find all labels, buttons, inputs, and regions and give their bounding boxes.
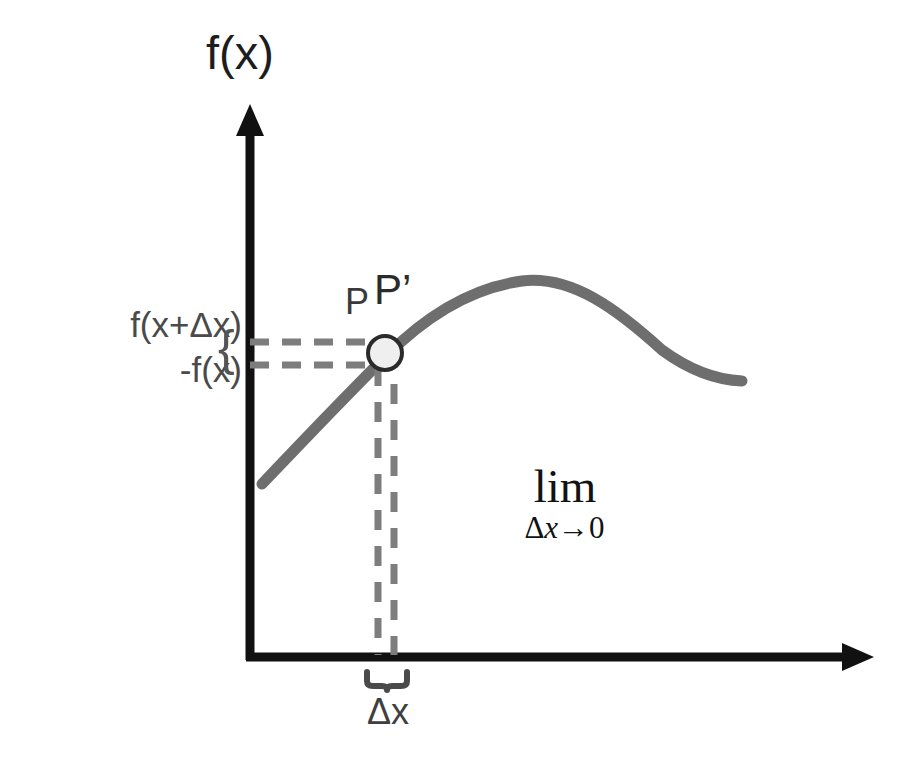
rise-label: f(x+Δx) -f(x) <box>36 305 242 390</box>
limit-sub-suffix: →0 <box>558 510 605 545</box>
derivative-diagram-figure: f(x) f(x+Δx) -f(x) { P P’ lim Δx→0 Δx <box>0 0 902 775</box>
secant-point-marker <box>368 336 402 370</box>
limit-operator-label: lim <box>500 462 630 511</box>
point-circle-icon <box>368 336 402 370</box>
run-label: Δx <box>340 693 436 731</box>
run-guides-group <box>378 348 394 655</box>
rise-label-line-1: f(x+Δx) <box>36 305 242 345</box>
limit-sub-prefix: Δ <box>524 510 544 545</box>
point-p-label: P <box>345 283 369 321</box>
function-curve-group <box>262 280 742 484</box>
brace-down-icon <box>367 672 407 690</box>
run-brace-bottom <box>367 672 407 690</box>
x-axis-arrow-icon <box>842 643 874 671</box>
function-curve <box>262 280 742 484</box>
limit-subscript-label: Δx→0 <box>482 512 647 545</box>
point-p-prime-label: P’ <box>374 268 411 312</box>
y-axis-label: f(x) <box>206 28 274 77</box>
y-axis-arrow-icon <box>236 104 264 136</box>
axes-group <box>236 104 874 671</box>
rise-label-line-2: -f(x) <box>36 350 242 390</box>
rise-brace: { <box>218 322 235 375</box>
limit-sub-var: x <box>544 510 558 545</box>
